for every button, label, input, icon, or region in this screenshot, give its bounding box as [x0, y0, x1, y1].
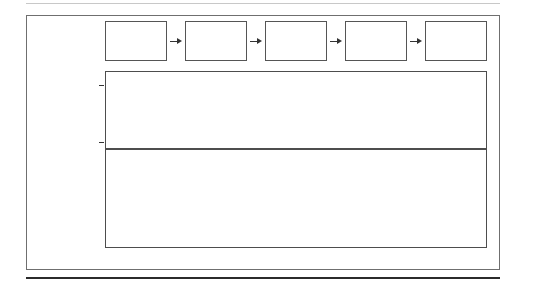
chart-panel-variety-index	[105, 149, 487, 248]
flow-box-craft-customization[interactable]	[105, 21, 167, 61]
variety-index-plot-area	[106, 150, 486, 247]
arrow-right-icon-1	[170, 37, 183, 46]
flow-box-variety-at-low-cost[interactable]	[345, 21, 407, 61]
flow-box-mass-customization[interactable]	[425, 21, 487, 61]
arrow-right-icon-3	[330, 37, 343, 46]
flow-box-mass-production[interactable]	[265, 21, 327, 61]
chart-panel-unit-cost	[105, 71, 487, 149]
flow-box-fragmented-production[interactable]	[185, 21, 247, 61]
top-divider-rule	[26, 3, 500, 4]
y-tick-mark-1-3	[99, 85, 104, 86]
arrow-right-icon-2	[250, 37, 263, 46]
x-axis-labels	[105, 254, 487, 266]
bottom-divider-rule	[26, 277, 500, 279]
arrow-right-icon-4	[410, 37, 423, 46]
unit-cost-plot-area	[106, 72, 486, 148]
y-tick-mark-0-6	[99, 142, 104, 143]
figure-root	[0, 0, 534, 293]
process-flow	[105, 19, 487, 63]
